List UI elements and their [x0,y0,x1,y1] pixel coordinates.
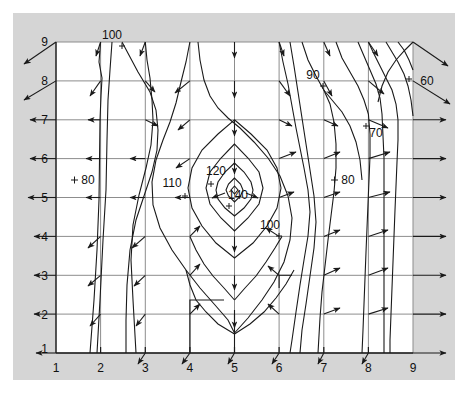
contour-label-70: 70 [369,126,383,140]
x-tick-6: 6 [276,361,283,375]
contour-label-120: 120 [206,164,226,178]
contour-plot-svg: 1 2 3 4 5 6 7 8 9 1 2 3 4 5 6 7 8 9 100 … [0,0,472,396]
contour-labels: 100 90 60 70 80 80 110 120 140 100 [71,28,434,239]
x-tick-1: 1 [53,361,60,375]
y-tick-1: 1 [41,342,48,356]
x-tick-7: 7 [320,361,327,375]
contour-label-90: 90 [306,68,320,82]
contour-marker-100-top [119,43,125,49]
x-tick-9: 9 [410,361,417,375]
contour-marker-80-left [71,177,78,184]
contour-marker-80-right [331,177,338,184]
y-axis-tick-labels: 1 2 3 4 5 6 7 8 9 [41,35,48,356]
tick-marks [101,347,369,353]
y-tick-3: 3 [41,269,48,283]
y-tick-6: 6 [41,152,48,166]
contour-marker-110 [182,193,188,199]
x-tick-5: 5 [231,361,238,375]
contour-label-80-right: 80 [341,173,355,187]
y-tick-7: 7 [41,113,48,127]
contour-label-60: 60 [420,74,434,88]
contour-marker-140 [226,203,232,209]
x-tick-2: 2 [97,361,104,375]
y-tick-5: 5 [41,191,48,205]
y-tick-8: 8 [41,74,48,88]
contour-label-110: 110 [162,176,181,190]
x-tick-4: 4 [187,361,194,375]
y-tick-2: 2 [41,308,48,322]
y-tick-4: 4 [41,230,48,244]
contour-plot-figure: 1 2 3 4 5 6 7 8 9 1 2 3 4 5 6 7 8 9 100 … [0,0,472,396]
contour-label-100-top: 100 [102,28,122,42]
x-tick-3: 3 [142,361,149,375]
contour-label-80-left: 80 [81,173,95,187]
contour-marker-120 [208,181,214,187]
x-tick-8: 8 [365,361,372,375]
gradient-arrows [24,42,450,364]
y-tick-9: 9 [41,35,48,49]
contour-label-140: 140 [228,188,248,202]
contour-label-100-center: 100 [260,218,280,232]
